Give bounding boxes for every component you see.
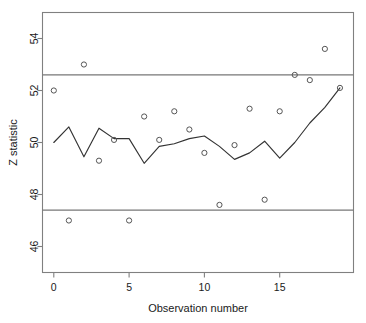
y-axis-tick-label: 46: [28, 241, 40, 253]
y-axis-tick-label: 52: [28, 85, 40, 97]
data-point-marker: [217, 202, 222, 207]
data-point-marker: [157, 137, 162, 142]
data-point-marker: [142, 114, 147, 119]
data-point-marker: [81, 62, 86, 67]
x-axis-tick-label: 10: [199, 281, 211, 293]
data-point-marker: [322, 46, 327, 51]
data-point-marker: [277, 109, 282, 114]
y-axis-tick-label: 48: [28, 189, 40, 201]
data-point-marker: [202, 150, 207, 155]
x-axis-tick-label: 15: [274, 281, 286, 293]
y-axis-tick-label: 50: [28, 137, 40, 149]
data-point-marker: [307, 78, 312, 83]
z-statistic-control-chart: 4648505254051015Observation numberZ stat…: [0, 0, 366, 323]
x-axis-tick-label: 0: [51, 281, 57, 293]
data-point-marker: [96, 158, 101, 163]
data-point-marker: [232, 143, 237, 148]
data-point-marker: [66, 218, 71, 223]
y-axis-label: Z statistic: [7, 119, 19, 166]
data-point-marker: [51, 88, 56, 93]
data-point-marker: [127, 218, 132, 223]
chart-container: 4648505254051015Observation numberZ stat…: [0, 0, 366, 323]
data-point-marker: [187, 127, 192, 132]
trend-line: [54, 88, 340, 163]
data-point-marker: [172, 109, 177, 114]
plot-frame: [43, 13, 354, 273]
data-point-marker: [262, 197, 267, 202]
x-axis-label: Observation number: [148, 302, 248, 314]
x-axis-tick-label: 5: [126, 281, 132, 293]
data-point-marker: [247, 106, 252, 111]
y-axis-tick-label: 54: [28, 33, 40, 45]
